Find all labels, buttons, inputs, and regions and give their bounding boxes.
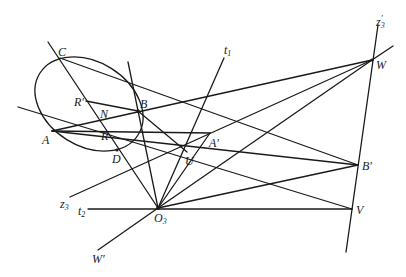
label-B: B [140, 98, 147, 110]
point-W [370, 58, 373, 61]
label-D: D [112, 153, 121, 165]
line-z3 [70, 60, 372, 197]
label-V: V [356, 204, 363, 216]
label-C: C [58, 46, 66, 58]
point-O3 [156, 206, 160, 210]
label-z3-prime: z3′ [376, 14, 383, 30]
label-t2: t2 [78, 205, 85, 219]
label-O3: O3 [154, 212, 167, 226]
line-Rprime-B [86, 101, 138, 111]
projective-construction-diagram: C B R′ N A R D U A′ W B′ V O3 t1 z3 t2 W… [0, 0, 406, 277]
line-A-Aprime [52, 131, 210, 133]
label-t1: t1 [224, 44, 231, 58]
label-R-prime: R′ [74, 96, 84, 108]
label-A: A [42, 134, 49, 146]
label-W-prime: W′ [92, 253, 105, 265]
label-N: N [100, 108, 108, 120]
label-A-prime: A′ [209, 137, 219, 149]
label-W: W [376, 59, 386, 71]
label-R: R [101, 130, 108, 142]
label-U: U [185, 155, 194, 167]
label-z3: z3 [60, 198, 69, 212]
line-Wprime [98, 208, 158, 250]
label-B-prime: B′ [362, 160, 372, 172]
diagram-canvas [0, 0, 406, 277]
